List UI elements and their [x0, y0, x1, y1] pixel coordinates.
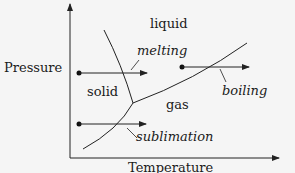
region-solid-label: solid: [87, 84, 118, 99]
phase-diagram: Pressure Temperature liquid solid gas me…: [0, 0, 295, 173]
region-liquid-label: liquid: [150, 16, 188, 31]
boiling-leader: [220, 69, 226, 82]
sublimation-curve: [83, 103, 133, 149]
boiling-label: boiling: [222, 83, 267, 98]
melting-label: melting: [137, 43, 187, 58]
melting-leader: [131, 60, 139, 70]
diagram-canvas: Pressure Temperature liquid solid gas me…: [0, 0, 295, 173]
y-axis-label: Pressure: [4, 60, 63, 75]
x-axis-label: Temperature: [128, 160, 213, 173]
region-gas-label: gas: [166, 97, 189, 112]
sublimation-label: sublimation: [136, 129, 213, 144]
